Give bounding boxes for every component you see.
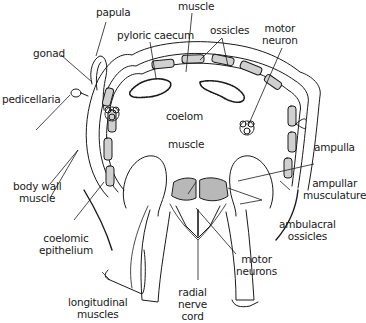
label-body-wall-muscle-line1: body wall	[13, 180, 61, 192]
label-coelomic-epithelium-line1: coelomic	[43, 232, 88, 244]
ampullae	[123, 156, 273, 216]
label-coelomic-epithelium-line2: epithelium	[39, 244, 93, 256]
label-motor-neuron: motor neuron	[262, 22, 298, 46]
label-motor-neuron-line2: neuron	[262, 34, 298, 46]
label-radial-nerve-cord-line2: nerve	[178, 298, 207, 310]
label-gonad: gonad	[33, 47, 65, 59]
label-ampullar-musculature-line2: musculature	[303, 189, 366, 201]
label-coelomic-epithelium: coelomic epithelium	[39, 232, 93, 256]
label-muscle-center: muscle	[168, 138, 204, 150]
label-body-wall-muscle-line2: muscle	[19, 192, 55, 204]
label-ambulacral-ossicles-line2: ossicles	[288, 230, 327, 242]
label-motor-neurons-line2: neurons	[236, 265, 277, 277]
label-ossicles: ossicles	[210, 24, 249, 36]
label-longitudinal-muscles: longitudinal muscles	[68, 296, 128, 320]
label-motor-neurons-line1: motor	[241, 253, 272, 265]
longitudinal-muscles	[105, 250, 145, 294]
label-muscle-top: muscle	[178, 0, 214, 12]
label-radial-nerve-cord-line3: cord	[181, 310, 203, 322]
label-papula: papula	[96, 6, 131, 18]
label-body-wall-muscle: body wall muscle	[13, 180, 61, 204]
label-motor-neurons: motor neurons	[236, 253, 277, 277]
label-ampullar-musculature-line1: ampullar	[312, 177, 357, 189]
label-radial-nerve-cord: radial nerve cord	[178, 286, 207, 322]
label-motor-neuron-line1: motor	[265, 22, 296, 34]
label-ampullar-musculature: ampullar musculature	[303, 177, 366, 201]
label-ambulacral-ossicles: ambulacral ossicles	[279, 218, 336, 242]
label-longitudinal-muscles-line1: longitudinal	[68, 296, 128, 308]
label-pedicellaria: pedicellaria	[2, 93, 60, 105]
central-muscle	[172, 178, 228, 201]
label-radial-nerve-cord-line1: radial	[178, 286, 207, 298]
label-pyloric-caecum: pyloric caecum	[117, 29, 194, 41]
label-ambulacral-ossicles-line1: ambulacral	[279, 218, 336, 230]
label-longitudinal-muscles-line2: muscles	[77, 308, 119, 320]
label-coelom: coelom	[166, 110, 203, 122]
pyloric-caecum	[130, 79, 244, 102]
label-ampulla: ampulla	[314, 141, 355, 153]
